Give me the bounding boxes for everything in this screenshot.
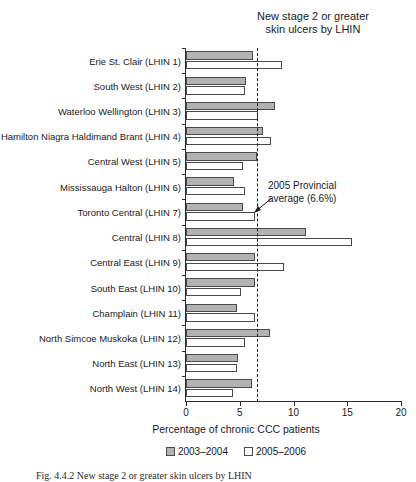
y-axis-tick (182, 98, 186, 99)
bar-2005-2006 (186, 111, 258, 119)
y-axis-category-label: North Simcoe Muskoka (LHIN 12) (39, 332, 181, 343)
bar-2003-2004 (186, 304, 237, 312)
bar-2003-2004 (186, 152, 257, 160)
bar-2003-2004 (186, 379, 252, 387)
chart-category-row: Waterloo Wellington (LHIN 3) (186, 98, 401, 123)
legend-label-2003-2004: 2003–2004 (178, 446, 228, 457)
y-axis-category-label: Central East (LHIN 9) (90, 257, 181, 268)
legend-swatch-icon-2005-2006 (244, 447, 253, 456)
provincial-average-line (257, 48, 258, 402)
chart-legend: 2003–2004 2005–2006 (0, 446, 416, 457)
bar-2005-2006 (186, 364, 237, 372)
y-axis-category-label: Erie St. Clair (LHIN 1) (89, 55, 181, 66)
x-axis-tick (186, 402, 187, 406)
chart-category-row: North Simcoe Muskoka (LHIN 12) (186, 325, 401, 350)
bar-2003-2004 (186, 127, 263, 135)
legend-label-2005-2006: 2005–2006 (256, 446, 306, 457)
y-axis-category-label: Champlain (LHIN 11) (92, 307, 181, 318)
y-axis-category-label: Central West (LHIN 5) (88, 156, 181, 167)
bar-2003-2004 (186, 177, 234, 185)
y-axis-tick (182, 376, 186, 377)
bar-2005-2006 (186, 238, 352, 246)
bar-2005-2006 (186, 263, 284, 271)
y-axis-tick (182, 149, 186, 150)
y-axis-category-label: North East (LHIN 13) (92, 358, 181, 369)
y-axis-tick (182, 225, 186, 226)
y-axis-category-label: Hamilton Niagra Haldimand Brant (LHIN 4) (1, 131, 181, 142)
bar-2005-2006 (186, 162, 243, 170)
chart-category-row: North East (LHIN 13) (186, 351, 401, 376)
y-axis-category-label: Toronto Central (LHIN 7) (78, 206, 181, 217)
y-axis-category-label: Central (LHIN 8) (112, 232, 181, 243)
y-axis-tick (182, 48, 186, 49)
bar-2003-2004 (186, 203, 243, 211)
bar-2005-2006 (186, 338, 245, 346)
chart-category-row: Central (LHIN 8) (186, 225, 401, 250)
provincial-average-annotation: 2005 Provincial average (6.6%) (268, 180, 336, 205)
x-axis-tick (401, 402, 402, 406)
y-axis-category-label: South West (LHIN 2) (94, 80, 181, 91)
y-axis-tick (182, 250, 186, 251)
chart-category-row: Champlain (LHIN 11) (186, 300, 401, 325)
x-axis-tick (347, 402, 348, 406)
bar-2003-2004 (186, 51, 253, 59)
bar-2005-2006 (186, 137, 271, 145)
legend-item-2005-2006: 2005–2006 (244, 446, 306, 457)
annotation-line-2: average (6.6%) (268, 193, 336, 206)
figure-caption: Fig. 4.4.2 New stage 2 or greater skin u… (36, 470, 252, 481)
bar-2003-2004 (186, 354, 238, 362)
x-axis-tick-label: 15 (342, 407, 353, 418)
bar-2003-2004 (186, 228, 306, 236)
bar-2003-2004 (186, 102, 275, 110)
chart-title-line-2: skin ulcers by LHIN (228, 23, 398, 36)
bar-2005-2006 (186, 61, 282, 69)
chart-category-row: Hamilton Niagra Haldimand Brant (LHIN 4) (186, 124, 401, 149)
bar-2003-2004 (186, 253, 255, 261)
bar-2005-2006 (186, 389, 233, 397)
bar-2005-2006 (186, 187, 245, 195)
chart-title: New stage 2 or greater skin ulcers by LH… (228, 10, 398, 36)
x-axis-tick (294, 402, 295, 406)
y-axis-tick (182, 351, 186, 352)
x-axis-tick-label: 10 (288, 407, 299, 418)
chart-category-row: North West (LHIN 14) (186, 376, 401, 401)
y-axis-tick (182, 199, 186, 200)
x-axis-tick-label: 20 (395, 407, 406, 418)
bar-2005-2006 (186, 313, 255, 321)
y-axis-tick (182, 124, 186, 125)
y-axis-category-label: Waterloo Wellington (LHIN 3) (58, 106, 181, 117)
chart-category-row: South East (LHIN 10) (186, 275, 401, 300)
y-axis-category-label: South East (LHIN 10) (91, 282, 181, 293)
bar-2005-2006 (186, 86, 245, 94)
y-axis-tick (182, 174, 186, 175)
legend-swatch-icon-2003-2004 (166, 447, 175, 456)
chart-category-row: Central East (LHIN 9) (186, 250, 401, 275)
bar-2003-2004 (186, 278, 255, 286)
chart-title-line-1: New stage 2 or greater (228, 10, 398, 23)
x-axis-tick-label: 5 (237, 407, 243, 418)
y-axis-category-label: North West (LHIN 14) (90, 383, 181, 394)
bar-2003-2004 (186, 77, 246, 85)
chart-category-row: Erie St. Clair (LHIN 1) (186, 48, 401, 73)
legend-item-2003-2004: 2003–2004 (166, 446, 228, 457)
y-axis-tick (182, 275, 186, 276)
plot-area: Erie St. Clair (LHIN 1)South West (LHIN … (186, 48, 401, 401)
bar-2005-2006 (186, 212, 255, 220)
annotation-line-1: 2005 Provincial (268, 180, 336, 193)
y-axis-tick (182, 300, 186, 301)
x-axis-tick (240, 402, 241, 406)
x-axis-tick-label: 0 (183, 407, 189, 418)
y-axis-category-label: Mississauga Halton (LHIN 6) (60, 181, 181, 192)
chart-category-row: South West (LHIN 2) (186, 73, 401, 98)
y-axis-tick (182, 325, 186, 326)
bar-2005-2006 (186, 288, 241, 296)
y-axis-tick (182, 73, 186, 74)
chart-category-row: Central West (LHIN 5) (186, 149, 401, 174)
x-axis-title: Percentage of chronic CCC patients (0, 423, 416, 435)
